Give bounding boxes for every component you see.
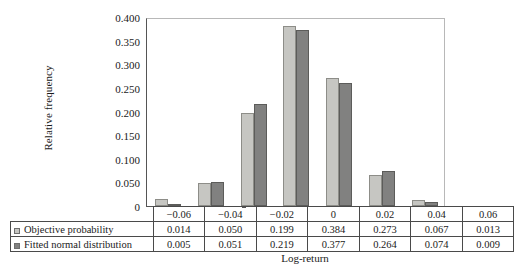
bar bbox=[198, 183, 211, 206]
x-axis-category-cell: −0.04 bbox=[205, 207, 257, 222]
bar bbox=[211, 182, 224, 206]
x-axis-category-cell: −0.02 bbox=[256, 207, 308, 222]
data-value-cell: 0.067 bbox=[411, 222, 463, 237]
data-value-cell: 0.050 bbox=[205, 222, 257, 237]
y-axis-tick-label: 0.300 bbox=[115, 59, 140, 71]
bar-group bbox=[361, 19, 404, 206]
bar bbox=[382, 171, 395, 206]
series-0-name: Objective probability bbox=[24, 224, 114, 235]
y-axis-tick-label: 0.050 bbox=[115, 177, 140, 189]
data-value-cell: 0.005 bbox=[153, 237, 205, 252]
plot-area bbox=[146, 18, 445, 207]
data-value-cell: 0.199 bbox=[256, 222, 308, 237]
table-row-categories: −0.06−0.04−0.0200.020.040.06 bbox=[11, 207, 514, 222]
y-axis-tick-label: 0.150 bbox=[115, 130, 140, 142]
table-row-series-0: Objective probability 0.0140.0500.1990.3… bbox=[11, 222, 514, 237]
bar bbox=[296, 30, 309, 206]
data-value-cell: 0.051 bbox=[205, 237, 257, 252]
legend-swatch-icon bbox=[14, 243, 20, 249]
legend-swatch-icon bbox=[14, 228, 20, 234]
bar bbox=[254, 104, 267, 206]
y-axis-tick-label: 0.100 bbox=[115, 154, 140, 166]
category-rowhead-blank bbox=[11, 207, 154, 222]
bar bbox=[241, 113, 254, 206]
bar bbox=[283, 26, 296, 206]
bars-layer bbox=[147, 19, 444, 206]
bar-group bbox=[232, 19, 275, 206]
x-axis-category-cell: 0.04 bbox=[411, 207, 463, 222]
x-axis-title: Log-return bbox=[155, 252, 455, 264]
bar-group bbox=[190, 19, 233, 206]
data-value-cell: 0.384 bbox=[308, 222, 360, 237]
y-axis-title: Relative frequency bbox=[42, 13, 54, 203]
x-axis-category-cell: 0 bbox=[308, 207, 360, 222]
data-table: −0.06−0.04−0.0200.020.040.06 Objective p… bbox=[10, 206, 514, 252]
series-1-name: Fitted normal distribution bbox=[24, 239, 132, 250]
y-axis-tick-label: 0.350 bbox=[115, 36, 140, 48]
bar-group bbox=[318, 19, 361, 206]
x-axis-category-cell: 0.06 bbox=[462, 207, 514, 222]
bar bbox=[339, 83, 352, 206]
data-value-cell: 0.377 bbox=[308, 237, 360, 252]
data-value-cell: 0.013 bbox=[462, 222, 514, 237]
data-value-cell: 0.074 bbox=[411, 237, 463, 252]
data-value-cell: 0.273 bbox=[359, 222, 411, 237]
data-value-cell: 0.264 bbox=[359, 237, 411, 252]
y-axis-tick-label: 0.400 bbox=[115, 12, 140, 24]
legend-item-objective-probability[interactable]: Objective probability bbox=[11, 222, 154, 237]
data-value-cell: 0.009 bbox=[462, 237, 514, 252]
x-axis-category-cell: −0.06 bbox=[153, 207, 205, 222]
bar-group bbox=[147, 19, 190, 206]
bar-group bbox=[403, 19, 446, 206]
bar bbox=[369, 175, 382, 206]
y-axis-tick-label: 0.200 bbox=[115, 107, 140, 119]
bar bbox=[326, 78, 339, 206]
table-row-series-1: Fitted normal distribution 0.0050.0510.2… bbox=[11, 237, 514, 252]
data-value-cell: 0.219 bbox=[256, 237, 308, 252]
bar-group bbox=[275, 19, 318, 206]
data-value-cell: 0.014 bbox=[153, 222, 205, 237]
legend-item-fitted-normal-distribution[interactable]: Fitted normal distribution bbox=[11, 237, 154, 252]
x-axis-category-cell: 0.02 bbox=[359, 207, 411, 222]
y-axis-tick-label: 0.250 bbox=[115, 83, 140, 95]
